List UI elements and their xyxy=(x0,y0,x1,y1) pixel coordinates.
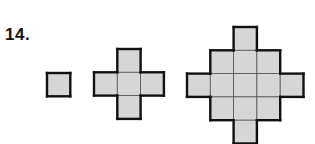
figure-3 xyxy=(187,27,304,144)
tile xyxy=(210,50,233,73)
tile xyxy=(234,27,257,50)
tile xyxy=(280,74,303,97)
tile xyxy=(187,74,210,97)
figure-2 xyxy=(94,49,164,119)
tile xyxy=(234,120,257,143)
tile xyxy=(257,50,280,73)
figure-1 xyxy=(47,73,70,96)
tile xyxy=(141,72,164,95)
tile xyxy=(257,74,280,97)
tile xyxy=(234,74,257,97)
tile xyxy=(117,96,140,119)
tile xyxy=(94,72,117,95)
tile xyxy=(210,74,233,97)
tile xyxy=(234,97,257,120)
tile xyxy=(117,72,140,95)
tile xyxy=(47,73,70,96)
tile xyxy=(257,97,280,120)
tile xyxy=(210,97,233,120)
tile xyxy=(234,50,257,73)
tile xyxy=(117,49,140,72)
pattern-figures xyxy=(0,0,315,144)
